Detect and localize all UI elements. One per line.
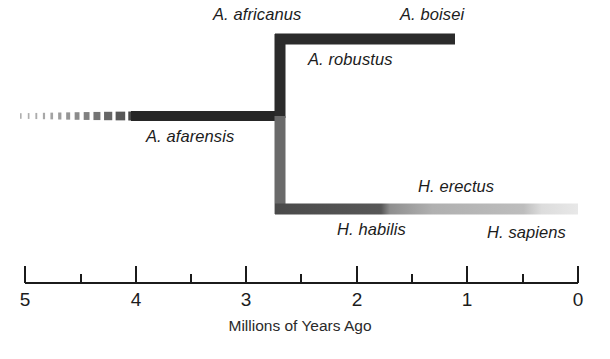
branch-afarensis-fade-dash [50,113,53,120]
axis-title: Millions of Years Ago [228,318,371,334]
branch-trunk-lower [275,116,286,214]
branch-afarensis-fade-dash [66,112,70,119]
cladogram-canvas [0,0,610,359]
branch-afarensis-fade-dash [84,112,90,120]
taxon-label-h-habilis: H. habilis [337,221,406,238]
branch-afarensis-fade-dash [93,112,100,120]
axis-tick-label-4: 4 [131,290,142,309]
axis-tick-label-2: 2 [352,290,363,309]
branch-afarensis-fade-dash [58,112,61,119]
branch-robust-branch [275,34,455,45]
phylogeny-figure: A. africanusA. boiseiA. robustusA. afare… [0,0,610,359]
branch-homo-branch [275,204,578,215]
branch-afarensis-fade-dash [104,112,112,120]
branch-afarensis [131,111,285,121]
branch-trunk-upper [275,34,286,118]
branch-afarensis-fade-dash [35,113,37,119]
taxon-label-a-africanus: A. africanus [213,6,301,23]
branch-layer [20,34,578,215]
taxon-label-a-afarensis: A. afarensis [146,128,234,145]
axis-tick-label-5: 5 [20,290,31,309]
branch-afarensis-fade-dash [20,113,22,119]
axis-tick-label-0: 0 [573,290,584,309]
taxon-label-a-boisei: A. boisei [400,6,464,23]
branch-afarensis-fade-dash [116,112,126,121]
branch-afarensis-fade-dash [43,113,45,119]
axis-tick-label-1: 1 [462,290,473,309]
axis-tick-label-3: 3 [241,290,252,309]
taxon-label-a-robustus: A. robustus [308,51,393,68]
taxon-label-h-erectus: H. erectus [418,178,494,195]
taxon-label-h-sapiens: H. sapiens [487,224,566,241]
branch-afarensis-fade-dash [75,112,80,120]
branch-afarensis-fade-dash [28,113,30,119]
time-axis [25,266,578,283]
